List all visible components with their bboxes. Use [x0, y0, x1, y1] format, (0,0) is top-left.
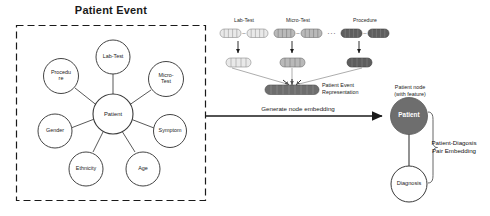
generate-node-embedding-label: Generate node embedding [243, 106, 353, 113]
aggregate-arrows [238, 41, 359, 53]
column-ellipsis: ... [325, 28, 339, 35]
patient-event-representation-vector [265, 85, 319, 95]
figure-root: Patient Event Patient Lab-Test Micro- Te… [0, 0, 490, 216]
node-label-age: Age [123, 166, 163, 172]
node-label-patient-center: Patient [93, 111, 133, 117]
column-label-micro-test: Micro-Test [268, 18, 328, 23]
aggregated-vector-procedure [347, 58, 372, 67]
node-label-symptom: Symptom [150, 128, 190, 134]
node-label-micro-test: Micro- Test [146, 73, 186, 84]
aggregated-vector-lab-test [226, 58, 251, 67]
convergence-arrowheads [283, 79, 301, 85]
token-vector-micro-1 [274, 29, 295, 38]
token-vector-lab-1 [220, 29, 241, 38]
token-separator-procedure: – [362, 30, 368, 36]
panel-title: Patient Event [46, 5, 176, 17]
node-label-gender: Gender [35, 128, 75, 134]
graph-node-label-patient: Patient [379, 112, 439, 119]
token-separator-micro: – [295, 30, 301, 36]
node-label-ethnicity: Ethnicity [66, 166, 106, 172]
node-label-procedure: Procedu re [41, 70, 81, 81]
pair-embedding-label: Patient-Diagosis Pair Embedding [418, 139, 490, 156]
token-vector-proc-2 [368, 29, 389, 38]
node-label-lab-test: Lab-Test [93, 54, 133, 60]
graph-node-label-diagnosis: Diagnosis [379, 181, 439, 187]
token-vector-lab-2 [247, 29, 268, 38]
patient-event-representation-caption: Patient Event Representation [322, 82, 376, 96]
token-separator-lab: – [241, 30, 247, 36]
aggregated-vector-micro-test [280, 58, 305, 67]
token-vector-proc-1 [341, 29, 362, 38]
patient-node-caption: Patient node (with feature) [379, 84, 441, 98]
token-vector-micro-2 [301, 29, 322, 38]
column-label-lab-test: Lab-Test [214, 18, 274, 23]
column-label-procedure: Procedure [335, 18, 395, 23]
